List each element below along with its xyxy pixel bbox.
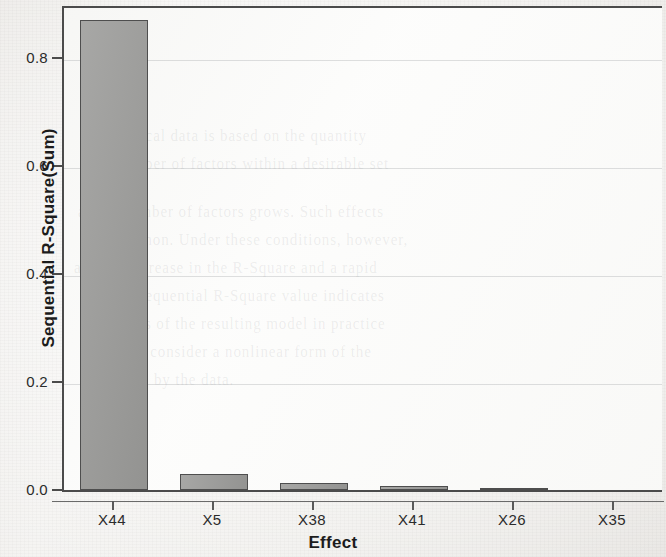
- bar-X38: [280, 483, 348, 490]
- x-tick-label-X38: X38: [298, 511, 326, 528]
- bars-layer: [64, 8, 662, 490]
- bar-X5: [180, 474, 248, 490]
- y-tick-mark: [52, 489, 62, 491]
- bar-X44: [80, 20, 148, 490]
- y-tick-label-0.0: 0.0: [26, 481, 48, 498]
- x-tick-label-X44: X44: [98, 511, 126, 528]
- x-axis-outer-line: [52, 501, 664, 502]
- x-tick-mark: [212, 501, 214, 510]
- x-tick-mark: [612, 501, 614, 510]
- x-tick-mark: [112, 501, 114, 510]
- x-tick-mark: [412, 501, 414, 510]
- x-tick-label-X26: X26: [498, 511, 526, 528]
- x-tick-label-X35: X35: [598, 511, 626, 528]
- x-tick-label-X5: X5: [202, 511, 221, 528]
- x-axis-baseline: [62, 490, 662, 492]
- x-tick-mark: [512, 501, 514, 510]
- x-tick-mark: [312, 501, 314, 510]
- x-tick-label-X41: X41: [398, 511, 426, 528]
- chart-figure: of historical data is based on the quant…: [0, 0, 666, 557]
- x-axis-title: Effect: [0, 533, 666, 553]
- y-axis-title: Sequential R-Square(Sum): [39, 28, 59, 448]
- plot-area: of historical data is based on the quant…: [62, 6, 662, 490]
